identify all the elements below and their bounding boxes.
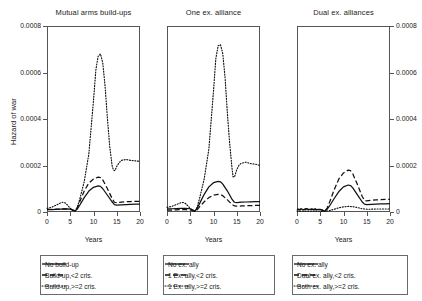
x-axis-title: Years bbox=[167, 236, 260, 243]
panel-mutual-arms-build-ups: Mutual arms build-ups Years bbox=[47, 0, 140, 246]
legend-panel-1: No ex. ally1 Ex. ally,<2 cris.1 Ex. ally… bbox=[163, 255, 275, 295]
x-tick-label: 5 bbox=[318, 218, 322, 225]
x-tick-label: 20 bbox=[136, 218, 144, 225]
legend-line-swatch-dashed bbox=[293, 270, 319, 280]
y-tick bbox=[43, 166, 47, 167]
x-tick-label: 5 bbox=[188, 218, 192, 225]
legend-item: No build-up bbox=[41, 259, 147, 270]
x-tick bbox=[344, 212, 345, 216]
plot-lines bbox=[297, 26, 390, 240]
x-tick bbox=[70, 212, 71, 216]
y-tick bbox=[390, 119, 394, 120]
x-axis-title: Years bbox=[47, 236, 140, 243]
legend-item: Both ex. ally,>=2 cris. bbox=[293, 281, 407, 292]
y-axis-title: Hazard of war bbox=[9, 98, 18, 145]
y-tick bbox=[390, 166, 394, 167]
x-tick-label: 10 bbox=[340, 218, 348, 225]
x-tick-label: 15 bbox=[113, 218, 121, 225]
panel-one-ex-alliance: One ex. alliance Years bbox=[167, 0, 260, 246]
legend-item: Build-up,>=2 cris. bbox=[41, 281, 147, 292]
y-tick bbox=[390, 26, 394, 27]
y-tick-label: 0.0008 bbox=[396, 22, 417, 29]
x-tick bbox=[140, 212, 141, 216]
legend-item: No ex. ally bbox=[164, 259, 274, 270]
legend-line-swatch-dotted bbox=[293, 281, 319, 291]
x-tick bbox=[367, 212, 368, 216]
x-tick-label: 10 bbox=[90, 218, 98, 225]
x-tick-label: 0 bbox=[165, 218, 169, 225]
legend-line-swatch-dotted bbox=[41, 281, 67, 291]
panel-dual-ex-alliances: Dual ex. alliances Years bbox=[297, 0, 390, 246]
legend-line-swatch-solid bbox=[164, 259, 190, 269]
x-tick bbox=[214, 212, 215, 216]
y-tick bbox=[43, 212, 47, 213]
panel-title: Mutual arms build-ups bbox=[47, 8, 140, 17]
legend-item: 1 Ex. ally,<2 cris. bbox=[164, 270, 274, 281]
y-tick-label: 0.0006 bbox=[396, 69, 417, 76]
plot-lines bbox=[47, 26, 140, 240]
legend-line-swatch-dashed bbox=[41, 270, 67, 280]
y-tick bbox=[390, 212, 394, 213]
y-tick bbox=[390, 73, 394, 74]
x-tick bbox=[237, 212, 238, 216]
y-tick-label: 0.0004 bbox=[396, 115, 417, 122]
figure-container: Hazard of war Mutual arms build-ups Year… bbox=[0, 0, 422, 301]
y-tick bbox=[43, 73, 47, 74]
x-tick-label: 5 bbox=[68, 218, 72, 225]
x-tick bbox=[260, 212, 261, 216]
x-tick bbox=[94, 212, 95, 216]
x-tick bbox=[117, 212, 118, 216]
legend-item: Build-up,<2 cris. bbox=[41, 270, 147, 281]
x-tick-label: 15 bbox=[363, 218, 371, 225]
y-tick-label: 0.0004 bbox=[20, 115, 41, 122]
x-tick-label: 0 bbox=[295, 218, 299, 225]
y-tick bbox=[43, 119, 47, 120]
y-tick bbox=[43, 26, 47, 27]
x-tick-label: 20 bbox=[256, 218, 264, 225]
x-axis-title: Years bbox=[297, 236, 390, 243]
x-tick bbox=[167, 212, 168, 216]
y-tick-label: 0 bbox=[37, 208, 41, 215]
x-tick-label: 0 bbox=[45, 218, 49, 225]
legend-panel-2: No ex. allyDual ex. ally,<2 cris.Both ex… bbox=[292, 255, 408, 295]
panel-title: Dual ex. alliances bbox=[297, 8, 390, 17]
y-tick-label: 0.0008 bbox=[20, 22, 41, 29]
x-tick-label: 10 bbox=[210, 218, 218, 225]
legend-panel-0: No build-upBuild-up,<2 cris.Build-up,>=2… bbox=[40, 255, 148, 295]
x-tick bbox=[320, 212, 321, 216]
legend-item: Dual ex. ally,<2 cris. bbox=[293, 270, 407, 281]
x-tick-label: 20 bbox=[386, 218, 394, 225]
y-tick-label: 0.0002 bbox=[396, 162, 417, 169]
legend-line-swatch-solid bbox=[41, 259, 67, 269]
x-tick bbox=[297, 212, 298, 216]
legend-item: No ex. ally bbox=[293, 259, 407, 270]
legend-item: 1 Ex. ally,>=2 cris. bbox=[164, 281, 274, 292]
y-tick-label: 0.0002 bbox=[20, 162, 41, 169]
y-tick-label: 0 bbox=[396, 208, 400, 215]
x-tick bbox=[47, 212, 48, 216]
legend-line-swatch-dashed bbox=[164, 270, 190, 280]
y-tick-label: 0.0006 bbox=[20, 69, 41, 76]
legend-line-swatch-solid bbox=[293, 259, 319, 269]
x-tick-label: 15 bbox=[233, 218, 241, 225]
plot-lines bbox=[167, 26, 260, 240]
panel-title: One ex. alliance bbox=[167, 8, 260, 17]
x-tick bbox=[190, 212, 191, 216]
legend-line-swatch-dotted bbox=[164, 281, 190, 291]
